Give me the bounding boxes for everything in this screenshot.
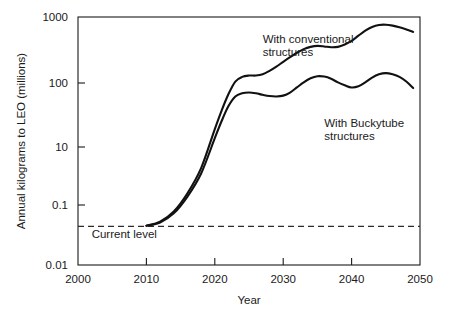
y-tick-label: 0.1 xyxy=(52,199,68,211)
y-axis-title: Annual kilograms to LEO (millions) xyxy=(15,53,27,230)
x-tick-label: 2050 xyxy=(407,273,433,285)
leo-launch-mass-log-chart: 1000100100.10.01 20002010202020302040205… xyxy=(0,0,453,314)
current-level-label: Current level xyxy=(92,228,157,240)
buckytube-label-line1: With Buckytube xyxy=(324,117,404,129)
x-tick-label: 2030 xyxy=(270,273,296,285)
x-tick-label: 2040 xyxy=(339,273,365,285)
buckytube-label-line2: structures xyxy=(324,130,375,142)
conventional-label-line2: structures xyxy=(263,46,314,58)
x-axis-title: Year xyxy=(237,294,260,306)
x-tick-label: 2010 xyxy=(134,273,160,285)
y-tick-label: 1000 xyxy=(42,11,68,23)
y-tick-label: 100 xyxy=(49,77,68,89)
conventional-label-line1: With conventional xyxy=(263,33,354,45)
x-tick-label: 2020 xyxy=(202,273,228,285)
y-tick-label: 0.01 xyxy=(46,259,68,271)
x-tick-label: 2000 xyxy=(65,273,91,285)
figure-container: 1000100100.10.01 20002010202020302040205… xyxy=(0,0,453,314)
y-tick-label: 10 xyxy=(55,141,68,153)
